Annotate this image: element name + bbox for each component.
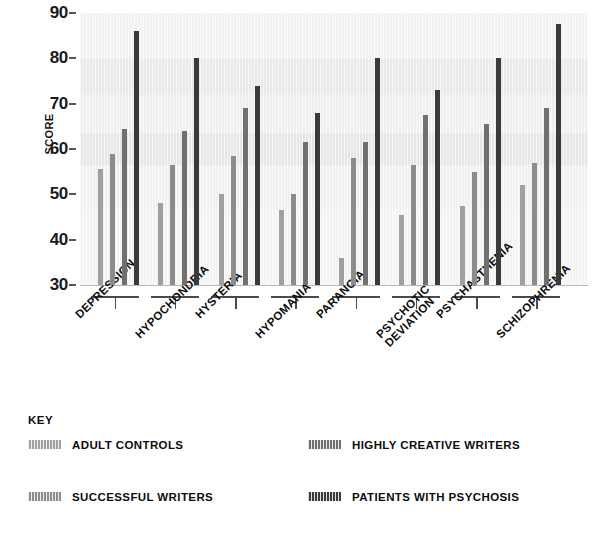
bar	[291, 194, 296, 285]
group-bracket-stem	[235, 296, 237, 309]
bar	[243, 108, 248, 285]
legend: KEY ADULT CONTROLSHIGHLY CREATIVE WRITER…	[28, 414, 588, 547]
bar	[134, 31, 139, 285]
legend-item[interactable]: ADULT CONTROLS	[28, 438, 183, 453]
bar-chart: SCORE 30405060708090 DEPRESSIONHYPOCHOND…	[0, 0, 600, 547]
legend-item[interactable]: PATIENTS WITH PSYCHOSIS	[308, 490, 519, 505]
legend-label: SUCCESSFUL WRITERS	[72, 490, 213, 505]
legend-label: ADULT CONTROLS	[72, 438, 183, 453]
bar-group	[520, 13, 561, 285]
bar	[98, 169, 103, 285]
bar	[170, 165, 175, 285]
bar	[399, 215, 404, 285]
bar-group	[460, 13, 501, 285]
bar	[255, 86, 260, 285]
bar	[363, 142, 368, 285]
bar	[182, 131, 187, 285]
bar	[435, 90, 440, 285]
bar	[544, 108, 549, 285]
legend-swatch-icon	[28, 440, 61, 449]
legend-label: HIGHLY CREATIVE WRITERS	[352, 438, 520, 453]
bar-group	[219, 13, 260, 285]
legend-entries: ADULT CONTROLSHIGHLY CREATIVE WRITERSSUC…	[28, 438, 588, 547]
bar	[351, 158, 356, 285]
legend-swatch-icon	[28, 492, 61, 501]
group-bracket-stem	[476, 296, 478, 309]
bar	[411, 165, 416, 285]
bar	[194, 58, 199, 285]
bar	[423, 115, 428, 285]
bar-group	[279, 13, 320, 285]
bar	[520, 185, 525, 285]
bar-group	[339, 13, 380, 285]
group-bracket-stem	[115, 296, 117, 309]
bar	[158, 203, 163, 285]
bar-group	[158, 13, 199, 285]
bar	[110, 154, 115, 285]
bar	[303, 142, 308, 285]
legend-title: KEY	[28, 414, 588, 426]
bar-group	[399, 13, 440, 285]
bar	[375, 58, 380, 285]
bar	[460, 206, 465, 285]
bar	[339, 258, 344, 285]
group-bracket-stem	[356, 296, 358, 309]
bar	[532, 163, 537, 285]
bar-group	[98, 13, 139, 285]
legend-item[interactable]: SUCCESSFUL WRITERS	[28, 490, 213, 505]
bar	[315, 113, 320, 285]
bar	[279, 210, 284, 285]
legend-label: PATIENTS WITH PSYCHOSIS	[352, 490, 519, 505]
bar	[556, 24, 561, 285]
bar	[496, 58, 501, 285]
bar	[231, 156, 236, 285]
legend-swatch-icon	[308, 440, 341, 449]
bar	[472, 172, 477, 285]
bar	[219, 194, 224, 285]
legend-item[interactable]: HIGHLY CREATIVE WRITERS	[308, 438, 520, 453]
bar	[484, 124, 489, 285]
legend-swatch-icon	[308, 492, 341, 501]
bar	[122, 129, 127, 285]
